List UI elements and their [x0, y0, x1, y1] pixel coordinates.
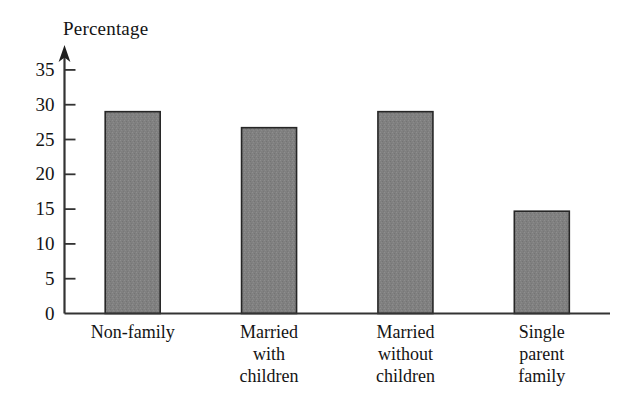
bar	[105, 112, 160, 314]
bar	[514, 211, 569, 313]
bar-chart: Percentage 05101520253035 Non-familyMarr…	[0, 0, 636, 409]
y-axis-tick-label: 30	[19, 94, 55, 116]
y-axis-tick-label: 35	[19, 59, 55, 81]
x-axis-category-label: Single parent family	[474, 322, 610, 388]
y-axis-tick-label: 5	[19, 268, 55, 290]
y-axis-tick-label: 20	[19, 163, 55, 185]
x-axis-category-label: Married without children	[337, 322, 473, 388]
y-axis-tick-label: 15	[19, 198, 55, 220]
x-axis-category-label: Non-family	[65, 322, 201, 344]
y-axis-tick-label: 25	[19, 129, 55, 151]
y-axis-tick-label: 10	[19, 233, 55, 255]
x-axis-category-label: Married with children	[201, 322, 337, 388]
bar	[378, 112, 433, 314]
y-axis-title: Percentage	[63, 18, 148, 40]
bar	[242, 128, 297, 314]
y-axis-tick-label: 0	[19, 303, 55, 325]
